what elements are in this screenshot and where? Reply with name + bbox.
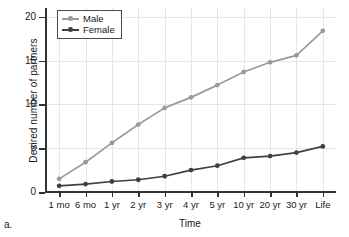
data-point[interactable] <box>268 154 273 159</box>
chart-figure: Desired number of partners Time a. 05101… <box>0 0 349 237</box>
legend-label-male: Male <box>79 13 104 24</box>
data-point[interactable] <box>83 160 88 165</box>
data-point[interactable] <box>189 95 194 100</box>
data-point[interactable] <box>162 174 167 179</box>
data-point[interactable] <box>294 150 299 155</box>
data-point[interactable] <box>268 60 273 65</box>
data-point[interactable] <box>136 122 141 127</box>
data-point[interactable] <box>294 53 299 58</box>
series-male <box>57 28 325 181</box>
data-point[interactable] <box>83 182 88 187</box>
data-point[interactable] <box>320 144 325 149</box>
data-point[interactable] <box>136 177 141 182</box>
data-point[interactable] <box>189 168 194 173</box>
data-point[interactable] <box>241 155 246 160</box>
data-point[interactable] <box>162 105 167 110</box>
legend-swatch-male-icon <box>62 13 79 24</box>
data-point[interactable] <box>57 183 62 188</box>
data-point[interactable] <box>215 83 220 88</box>
series-line <box>59 31 323 179</box>
series-layer <box>0 0 349 237</box>
legend-item-female[interactable]: Female <box>62 24 115 35</box>
legend-item-male[interactable]: Male <box>62 13 115 24</box>
legend: Male Female <box>57 10 122 39</box>
legend-swatch-female-icon <box>62 24 79 35</box>
legend-label-female: Female <box>79 24 115 35</box>
series-female <box>57 144 325 188</box>
data-point[interactable] <box>320 28 325 33</box>
data-point[interactable] <box>110 141 115 146</box>
data-point[interactable] <box>57 176 62 181</box>
data-point[interactable] <box>241 70 246 75</box>
data-point[interactable] <box>215 163 220 168</box>
data-point[interactable] <box>110 179 115 184</box>
